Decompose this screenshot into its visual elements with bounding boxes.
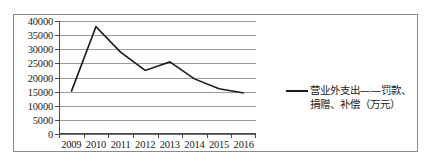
y-axis-tick-label: 5000 [33, 114, 53, 125]
y-axis-tick-label: 20000 [28, 72, 53, 83]
x-axis-tick-label: 2009 [61, 139, 81, 150]
x-axis-tick [84, 134, 85, 138]
x-axis-tick-label: 2013 [160, 139, 180, 150]
chart-figure: 0500010000150002000025000300003500040000… [13, 14, 418, 152]
y-axis-tick-label: 0 [48, 129, 53, 140]
x-axis-tick-label: 2010 [86, 139, 106, 150]
legend: 营业外支出——罚款、捐赠、补偿（万元） [286, 83, 418, 111]
series-line-expense [71, 27, 243, 93]
y-axis-tick-label: 25000 [28, 58, 53, 69]
x-axis-tick [59, 134, 60, 138]
series-line-group [59, 21, 256, 134]
x-axis-tick [231, 134, 232, 138]
y-axis-tick-label: 35000 [28, 30, 53, 41]
x-axis-tick [158, 134, 159, 138]
x-axis-tick [255, 134, 256, 138]
x-axis-tick [108, 134, 109, 138]
x-axis-tick-label: 2014 [184, 139, 204, 150]
y-axis-tick-label: 15000 [28, 86, 53, 97]
legend-label-expense: 营业外支出——罚款、捐赠、补偿（万元） [310, 83, 418, 111]
x-axis-tick [133, 134, 134, 138]
y-axis-tick-label: 10000 [28, 100, 53, 111]
x-axis-tick [182, 134, 183, 138]
x-axis-tick [207, 134, 208, 138]
legend-line-swatch [286, 90, 308, 92]
x-axis-tick-label: 2012 [135, 139, 155, 150]
y-axis-tick-label: 40000 [28, 16, 53, 27]
x-axis-tick-label: 2015 [209, 139, 229, 150]
x-axis-tick-label: 2011 [111, 139, 131, 150]
plot-area: 0500010000150002000025000300003500040000… [59, 21, 256, 134]
y-axis-tick-label: 30000 [28, 44, 53, 55]
x-axis-tick-label: 2016 [234, 139, 254, 150]
